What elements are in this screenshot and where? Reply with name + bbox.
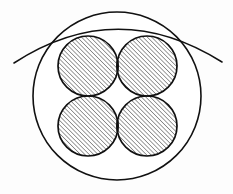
line-drawing-svg (0, 0, 233, 194)
figure-canvas (0, 0, 233, 194)
outer-circle (33, 12, 201, 180)
